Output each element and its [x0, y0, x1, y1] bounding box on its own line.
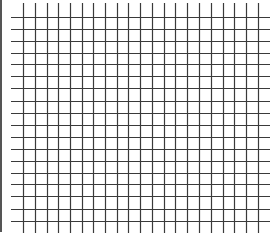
graph-paper-grid	[0, 0, 277, 236]
background	[0, 0, 277, 236]
vertical-grid-lines	[24, 3, 259, 233]
